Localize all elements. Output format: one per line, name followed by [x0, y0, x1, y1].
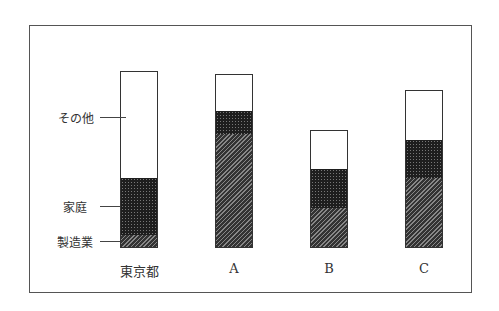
- segment-manufacturing: [121, 235, 157, 247]
- segment-home: [216, 111, 252, 134]
- segment-other: [406, 91, 442, 140]
- segment-manufacturing: [311, 208, 347, 247]
- category-label-c: C: [394, 261, 454, 276]
- segment-other: [311, 131, 347, 169]
- legend-label-manufacturing: 製造業: [57, 233, 93, 250]
- bar-a: [215, 74, 253, 248]
- segment-home: [406, 140, 442, 178]
- segment-other: [121, 72, 157, 178]
- legend-label-home: 家庭: [63, 198, 87, 215]
- segment-manufacturing: [406, 178, 442, 247]
- leader-line-manufacturing: [100, 241, 120, 242]
- segment-manufacturing: [216, 134, 252, 247]
- category-label-tokyo: 東京都: [109, 261, 169, 280]
- leader-line-other: [100, 117, 126, 118]
- legend-label-other: その他: [58, 109, 94, 126]
- segment-home: [311, 169, 347, 208]
- segment-other: [216, 75, 252, 111]
- bar-c: [405, 90, 443, 248]
- category-label-a: A: [204, 261, 264, 276]
- bar-tokyo: [120, 71, 158, 248]
- segment-home: [121, 178, 157, 235]
- leader-line-home: [100, 206, 120, 207]
- category-label-b: B: [299, 261, 359, 276]
- bar-b: [310, 130, 348, 248]
